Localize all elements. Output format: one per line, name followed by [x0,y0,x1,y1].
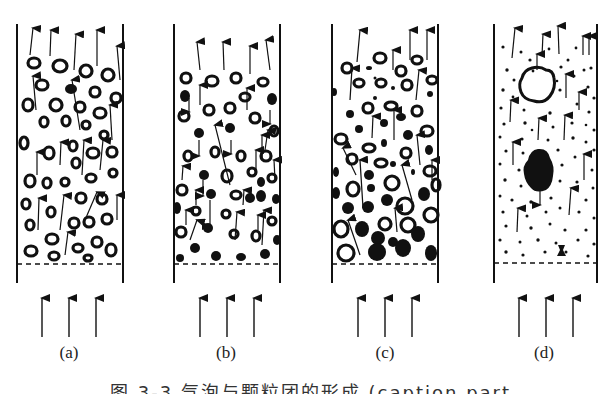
panel-b-column [173,24,281,283]
panel-label-a: (a) [49,343,89,363]
panel-label-c: (c) [365,343,405,363]
panel-c-column [331,24,440,283]
gas-inflow-arrows [42,298,573,337]
figure-caption: 图 3-3 气泡与颗粒团的形成 (caption partially cropp… [110,382,510,394]
panel-d-column [494,24,597,283]
fluidization-diagram [0,0,610,394]
panel-label-b: (b) [206,343,246,363]
panel-a-column [17,24,123,283]
panel-label-d: (d) [524,343,564,363]
